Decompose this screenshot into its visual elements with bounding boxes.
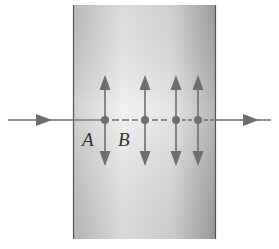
transmitted-ray bbox=[216, 114, 271, 126]
point-a-dot bbox=[101, 116, 109, 124]
oscillation-vector-a bbox=[100, 75, 111, 166]
label-a: A bbox=[80, 129, 94, 150]
oscillation-vector-4 bbox=[193, 75, 204, 166]
label-b: B bbox=[118, 129, 130, 150]
incident-arrow-icon bbox=[36, 114, 52, 126]
transmitted-arrow-icon bbox=[243, 114, 259, 126]
incident-ray bbox=[8, 114, 73, 126]
point-4-dot bbox=[194, 116, 202, 124]
point-b-dot bbox=[141, 116, 149, 124]
point-3-dot bbox=[172, 116, 180, 124]
optics-diagram: A B bbox=[0, 0, 279, 249]
oscillation-vector-3 bbox=[171, 75, 182, 166]
oscillation-vector-b bbox=[140, 75, 151, 166]
